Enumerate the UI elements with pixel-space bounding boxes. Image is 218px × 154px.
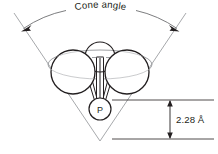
phosphorus-atom: P <box>89 98 111 120</box>
substituent-left-outline <box>51 50 95 94</box>
dimension-arrowhead-top <box>167 100 173 107</box>
bond-distance-label: 2.28 Å <box>176 114 205 125</box>
phosphorus-label: P <box>97 105 103 115</box>
cone-angle-figure: Cone angle <box>0 0 218 154</box>
cone-angle-arc-group <box>21 11 180 32</box>
cone-angle-arc-right <box>136 11 177 29</box>
cone-angle-diagram-canvas: Cone angle <box>0 0 218 154</box>
dimension-arrowhead-bottom <box>167 133 173 140</box>
substituent-right-outline <box>105 50 149 94</box>
bond-distance-dimension: 2.28 Å <box>112 100 214 139</box>
cone-angle-label: Cone angle <box>74 0 128 12</box>
cone-angle-label-group: Cone angle <box>74 0 128 12</box>
cone-angle-arc-left <box>24 11 67 29</box>
cone-angle-arrowhead-right <box>169 25 180 32</box>
